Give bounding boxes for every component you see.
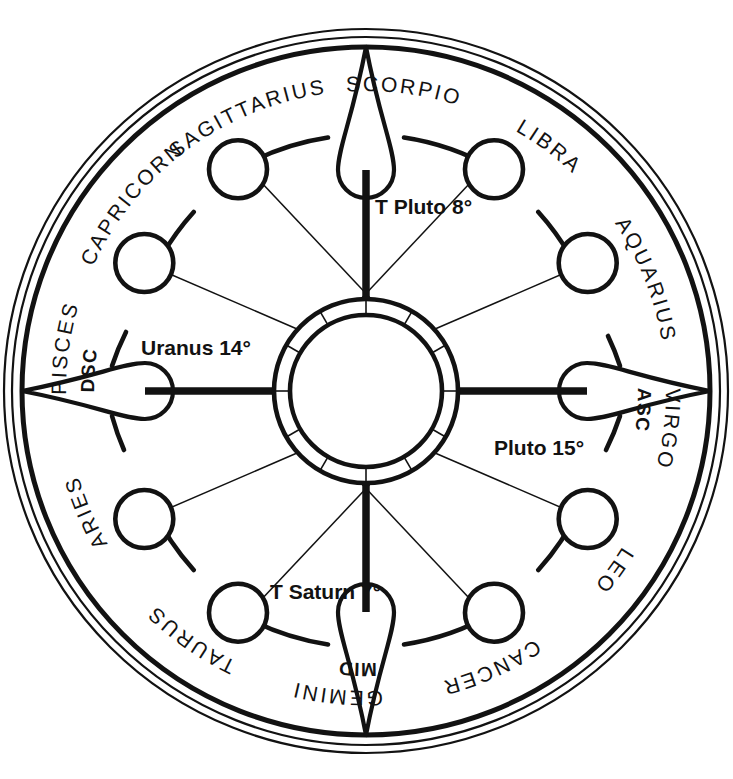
- house-node[interactable]: [559, 234, 617, 292]
- house-node[interactable]: [209, 584, 267, 642]
- house-node[interactable]: [209, 140, 267, 198]
- angle-label-asc: ASC: [631, 388, 655, 434]
- angle-label-mid: MID: [337, 658, 377, 680]
- house-node[interactable]: [115, 490, 173, 548]
- house-node[interactable]: [465, 584, 523, 642]
- planet-label-uranus: Uranus 14°: [141, 336, 251, 359]
- house-node[interactable]: [465, 140, 523, 198]
- planet-label-t-saturn: T Saturn 7°: [270, 580, 381, 603]
- house-node[interactable]: [115, 234, 173, 292]
- angle-label-dsc: DSC: [77, 347, 101, 393]
- planet-label-t-pluto: T Pluto 8°: [375, 195, 472, 218]
- hub-inner-ring: [290, 315, 442, 467]
- center-hub-group: [274, 299, 458, 483]
- astrology-wheel: CAPRICORN SAGITTARIUS SCORPIO LIBRA PISC…: [0, 0, 733, 779]
- house-node[interactable]: [559, 490, 617, 548]
- planet-label-pluto: Pluto 15°: [494, 436, 584, 459]
- chart-wheel-container: CAPRICORN SAGITTARIUS SCORPIO LIBRA PISC…: [0, 0, 733, 779]
